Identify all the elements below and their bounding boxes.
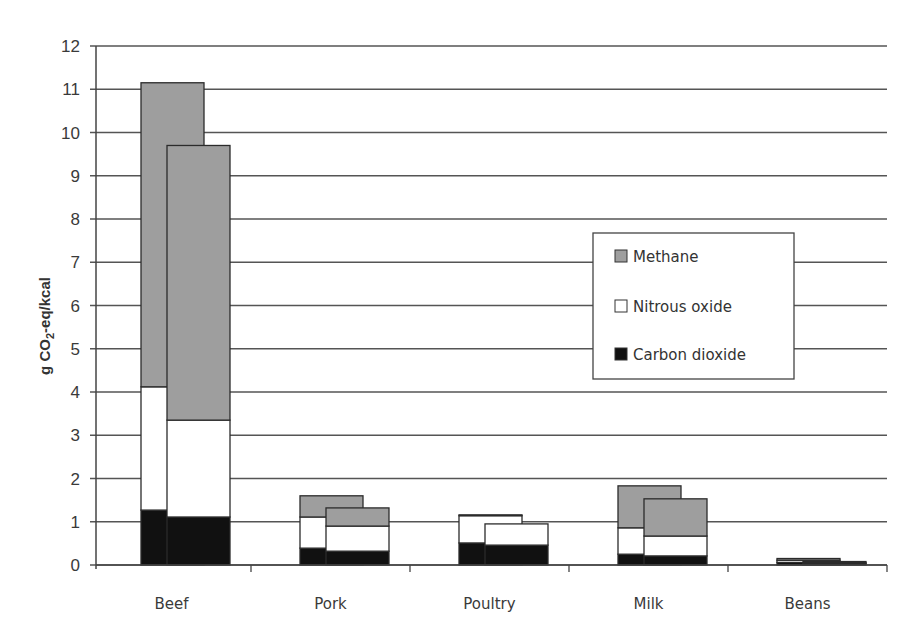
y-tick-label: 8 — [71, 210, 80, 229]
bar-segment-nitrous-oxide — [485, 524, 548, 545]
bar-segment-methane — [777, 559, 840, 561]
bar-milk-2 — [644, 499, 707, 565]
x-tick-label: Beans — [784, 595, 830, 613]
bar-segment-carbon-dioxide — [326, 551, 389, 565]
y-tick-label: 7 — [71, 253, 80, 272]
stacked-bar-chart: 0123456789101112 BeefPorkPoultryMilkBean… — [0, 0, 917, 641]
x-tick-label: Pork — [314, 595, 347, 613]
bar-segment-nitrous-oxide — [644, 536, 707, 556]
legend-label: Carbon dioxide — [633, 346, 746, 364]
y-tick-label: 5 — [71, 340, 80, 359]
bar-segment-carbon-dioxide — [167, 517, 230, 565]
y-tick-label: 6 — [71, 297, 80, 316]
legend-swatch-nitrous-oxide — [615, 300, 627, 312]
bar-segment-methane — [167, 145, 230, 420]
bar-pork-2 — [326, 508, 389, 565]
bar-segment-methane — [644, 499, 707, 536]
x-tick-label: Poultry — [463, 595, 515, 613]
x-tick-label: Milk — [634, 595, 664, 613]
y-tick-label: 10 — [61, 124, 80, 143]
y-tick-label: 1 — [71, 513, 80, 532]
bar-segment-carbon-dioxide — [485, 545, 548, 565]
y-tick-label: 2 — [71, 470, 80, 489]
y-tick-label: 0 — [71, 556, 80, 575]
bar-poultry-2 — [485, 524, 548, 565]
bar-segment-methane — [459, 515, 522, 516]
x-tick-labels: BeefPorkPoultryMilkBeans — [154, 595, 830, 613]
legend-swatch-carbon-dioxide — [615, 348, 627, 360]
legend: MethaneNitrous oxideCarbon dioxide — [593, 233, 794, 379]
y-tick-label: 4 — [71, 383, 80, 402]
x-tick-label: Beef — [154, 595, 189, 613]
bar-segment-methane — [326, 508, 389, 526]
bar-beef-2 — [167, 145, 230, 565]
y-tick-label: 11 — [62, 80, 80, 99]
legend-swatch-methane — [615, 250, 627, 262]
y-tick-label: 12 — [61, 37, 80, 56]
y-tick-label: 3 — [71, 426, 80, 445]
y-tick-label: 9 — [71, 167, 80, 186]
legend-label: Nitrous oxide — [633, 298, 732, 316]
legend-label: Methane — [633, 248, 699, 266]
bar-segment-methane — [803, 562, 866, 563]
bar-segment-carbon-dioxide — [644, 556, 707, 565]
y-axis-label: g CO2-eq/kcal — [36, 277, 56, 375]
y-tick-labels: 0123456789101112 — [61, 37, 80, 575]
bar-segment-nitrous-oxide — [167, 420, 230, 517]
bar-segment-nitrous-oxide — [326, 526, 389, 551]
